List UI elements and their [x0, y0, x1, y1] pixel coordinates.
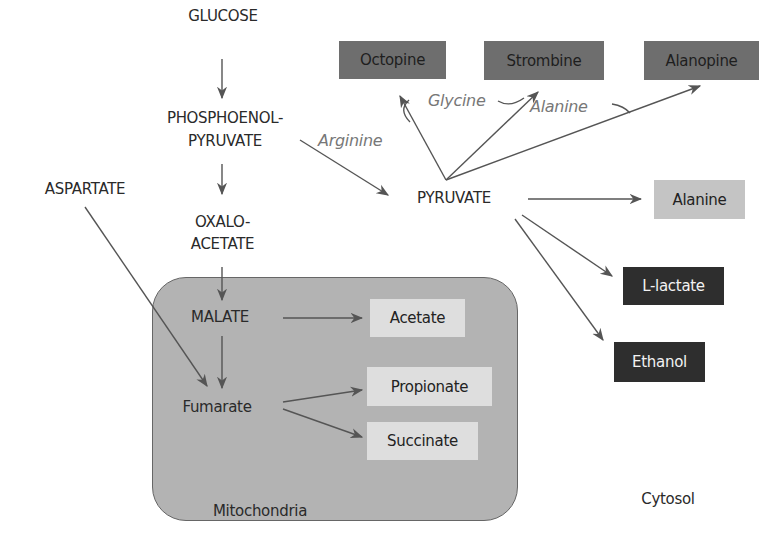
cosubstrate-alanine: Alanine — [530, 97, 588, 116]
metabolite-oxaloacetate-line1: OXALO- — [170, 212, 275, 233]
cosubstrate-arginine: Arginine — [318, 131, 382, 150]
product-propionate: Propionate — [367, 367, 492, 406]
arrow-fumarate-propionate — [283, 390, 362, 402]
product-l-lactate: L-lactate — [623, 267, 724, 305]
product-acetate: Acetate — [370, 299, 465, 337]
arrow-pyruvate-l-lactate — [522, 215, 612, 276]
metabolite-oxaloacetate-line2: ACETATE — [170, 234, 275, 255]
arrow-pyruvate-ethanol — [515, 219, 603, 340]
metabolite-malate: MALATE — [180, 307, 260, 328]
metabolite-pyruvate: PYRUVATE — [404, 188, 504, 209]
product-octopine: Octopine — [339, 41, 446, 79]
product-ethanol: Ethanol — [614, 342, 705, 382]
product-strombine: Strombine — [484, 41, 604, 80]
metabolite-fumarate: Fumarate — [172, 397, 262, 418]
product-succinate: Succinate — [367, 422, 478, 460]
metabolite-pep-line1: PHOSPHOENOL- — [150, 108, 300, 129]
metabolite-aspartate: ASPARTATE — [30, 179, 140, 200]
product-alanopine: Alanopine — [644, 41, 759, 80]
product-alanine: Alanine — [654, 180, 745, 219]
hook-glycine — [498, 98, 524, 104]
compartment-label-mitochondria: Mitochondria — [200, 501, 320, 522]
metabolite-pep-line2: PYRUVATE — [150, 131, 300, 152]
hook-alanine — [612, 104, 630, 113]
metabolite-glucose: GLUCOSE — [178, 6, 268, 27]
cosubstrate-glycine: Glycine — [428, 91, 485, 110]
arrow-fumarate-succinate — [283, 409, 362, 437]
compartment-label-cytosol: Cytosol — [618, 489, 718, 510]
